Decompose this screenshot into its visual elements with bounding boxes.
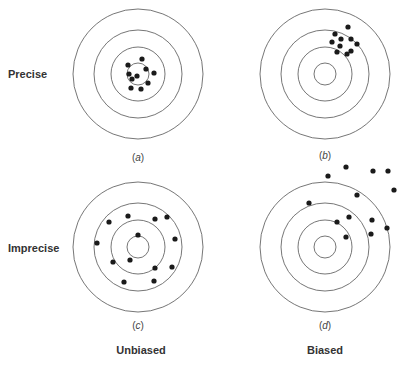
shot-dot	[384, 225, 389, 230]
shot-dot	[125, 62, 130, 67]
shot-dot	[169, 264, 174, 269]
shot-dot	[343, 234, 348, 239]
shot-dot	[343, 164, 348, 169]
row-label-precise: Precise	[8, 68, 47, 80]
shot-dot	[325, 173, 330, 178]
target-ring	[314, 63, 336, 85]
shot-dot	[128, 85, 133, 90]
shot-dot	[139, 56, 144, 61]
target-ring	[127, 236, 149, 258]
shot-dot	[345, 24, 350, 29]
panel-label-d: (d)	[319, 320, 331, 331]
panel-label-c: (c)	[132, 320, 144, 331]
shot-dot	[152, 216, 157, 221]
shot-dot	[334, 49, 339, 54]
target-ring	[260, 9, 390, 139]
shot-dot	[334, 219, 339, 224]
targets-canvas	[0, 0, 405, 365]
shot-dot	[306, 200, 311, 205]
panel-label-a: (a)	[132, 152, 144, 163]
shot-dot	[138, 86, 143, 91]
shot-dot	[368, 231, 373, 236]
shot-dot	[172, 236, 177, 241]
shot-dot	[348, 36, 353, 41]
shot-dot	[370, 168, 375, 173]
target-d	[260, 164, 397, 312]
shot-dot	[329, 39, 334, 44]
shot-dot	[151, 278, 156, 283]
column-label-biased: Biased	[307, 344, 343, 356]
shot-dot	[125, 213, 130, 218]
shot-dot	[391, 187, 396, 192]
shot-dot	[354, 41, 359, 46]
target-ring	[111, 220, 165, 274]
shot-dot	[129, 76, 134, 81]
target-ring	[298, 220, 352, 274]
shot-dot	[385, 168, 390, 173]
panel-label-b: (b)	[319, 150, 331, 161]
shot-dot	[344, 51, 349, 56]
shot-dot	[135, 232, 140, 237]
shot-dot	[127, 257, 132, 262]
target-c	[73, 182, 203, 312]
panel-letter: b	[322, 150, 328, 161]
shot-dot	[337, 43, 342, 48]
shot-dot	[346, 214, 351, 219]
target-ring	[298, 47, 352, 101]
row-label-imprecise: Imprecise	[8, 242, 59, 254]
target-b	[260, 9, 390, 139]
panel-letter: a	[135, 152, 141, 163]
shot-dot	[126, 71, 131, 76]
precision-bias-figure: Precise Imprecise Unbiased Biased (a) (b…	[0, 0, 405, 365]
shot-dot	[145, 80, 150, 85]
shot-dot	[151, 70, 156, 75]
target-ring	[314, 236, 336, 258]
target-ring	[260, 182, 390, 312]
shot-dot	[94, 240, 99, 245]
shot-dot	[164, 214, 169, 219]
shot-dot	[369, 217, 374, 222]
panel-letter: d	[322, 320, 328, 331]
target-ring	[281, 203, 369, 291]
target-ring	[73, 182, 203, 312]
shot-dot	[121, 279, 126, 284]
panel-letter: c	[136, 320, 141, 331]
shot-dot	[110, 259, 115, 264]
shot-dot	[143, 66, 148, 71]
shot-dot	[332, 31, 337, 36]
shot-dot	[106, 219, 111, 224]
target-a	[73, 9, 203, 139]
shot-dot	[338, 36, 343, 41]
shot-dot	[152, 265, 157, 270]
shot-dot	[354, 192, 359, 197]
shot-dot	[134, 73, 139, 78]
column-label-unbiased: Unbiased	[116, 344, 166, 356]
